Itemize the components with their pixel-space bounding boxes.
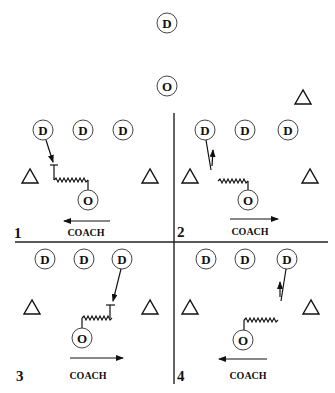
defender: D — [277, 249, 297, 269]
defender-label: D — [283, 123, 292, 138]
defender-slide-arrow — [113, 269, 121, 301]
quadrant-3: D D D O COACH 3 — [16, 249, 158, 384]
quadrant-number: 1 — [14, 225, 22, 241]
defender: D — [73, 120, 93, 140]
coach-label: COACH — [67, 227, 104, 238]
defender-label: D — [200, 123, 209, 138]
dribble-path — [244, 318, 278, 322]
quadrant-1: D D D O COACH 1 — [14, 120, 158, 241]
cone-icon — [142, 169, 158, 183]
defender-closeout-line — [206, 140, 211, 170]
offense: O — [72, 328, 92, 348]
recover-arrow — [212, 150, 213, 166]
offense-label: O — [83, 193, 93, 208]
cone-icon — [295, 90, 311, 104]
quadrant-2: D D D O COACH 2 — [177, 120, 318, 240]
top-defender: D — [157, 13, 177, 33]
cone-icon — [182, 300, 198, 314]
defender-label: D — [162, 16, 171, 31]
coach-label: COACH — [229, 370, 266, 381]
cone-icon — [142, 300, 158, 314]
offense-label: O — [243, 193, 253, 208]
defender-label: D — [79, 252, 88, 267]
defender: D — [278, 120, 298, 140]
cone-icon — [22, 169, 38, 183]
dribble-path — [218, 179, 248, 183]
defender: D — [35, 249, 55, 269]
offense-label: O — [162, 79, 172, 94]
defender-label: D — [40, 252, 49, 267]
defender: D — [33, 120, 53, 140]
defender-label: D — [78, 123, 87, 138]
defender: D — [196, 249, 216, 269]
defender-closeout-line — [281, 269, 286, 301]
offense-label: O — [77, 331, 87, 346]
defender-label: D — [38, 123, 47, 138]
defender: D — [74, 249, 94, 269]
defender: D — [235, 249, 255, 269]
coach-label: COACH — [231, 226, 268, 237]
quadrant-number: 4 — [177, 368, 185, 384]
cone-icon — [303, 300, 319, 314]
offense: O — [233, 330, 253, 350]
defender-label: D — [117, 252, 126, 267]
offense: O — [238, 190, 258, 210]
dribble-path — [82, 316, 112, 320]
cone-icon — [302, 169, 318, 183]
offense-label: O — [238, 333, 248, 348]
quadrant-number: 3 — [16, 368, 24, 384]
defender: D — [195, 120, 215, 140]
defender: D — [113, 120, 133, 140]
defender: D — [112, 249, 132, 269]
quadrant-4: D D D O COACH 4 — [177, 249, 319, 384]
defender-label: D — [118, 123, 127, 138]
dribble-path — [54, 178, 88, 182]
defender-label: D — [282, 252, 291, 267]
offense: O — [78, 190, 98, 210]
quadrant-number: 2 — [177, 224, 185, 240]
defender-label: D — [240, 252, 249, 267]
top-offense: O — [157, 76, 177, 96]
drill-diagram: D O D D D O COACH 1 D D D O COACH — [0, 0, 335, 393]
defender-label: D — [201, 252, 210, 267]
cone-icon — [24, 300, 40, 314]
defender: D — [235, 120, 255, 140]
coach-label: COACH — [69, 370, 106, 381]
cone-icon — [182, 169, 198, 183]
defender-slide-arrow — [46, 140, 53, 162]
defender-label: D — [240, 123, 249, 138]
